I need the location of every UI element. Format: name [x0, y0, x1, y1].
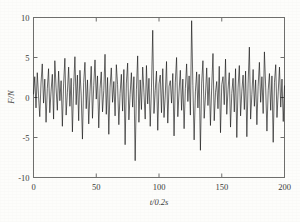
y-tick-label: 5	[25, 53, 29, 63]
y-tick-label: 0	[25, 93, 29, 103]
figure-panel: 050100150200 -10-50510 t/0.2s F/N	[0, 0, 300, 222]
x-tick-label: 200	[278, 182, 291, 192]
x-tick-label: 150	[215, 182, 228, 192]
y-tick-label: 10	[21, 13, 30, 23]
x-axis-label: t/0.2s	[150, 197, 169, 207]
x-tick-label: 100	[153, 182, 166, 192]
y-axis-label: F/N	[6, 89, 16, 105]
y-tick-label: -10	[18, 173, 29, 183]
x-tick-label: 0	[31, 182, 35, 192]
y-tick-label: -5	[22, 133, 29, 143]
x-tick-label: 50	[92, 182, 101, 192]
noise-signal-chart: 050100150200 -10-50510 t/0.2s F/N	[0, 0, 300, 222]
